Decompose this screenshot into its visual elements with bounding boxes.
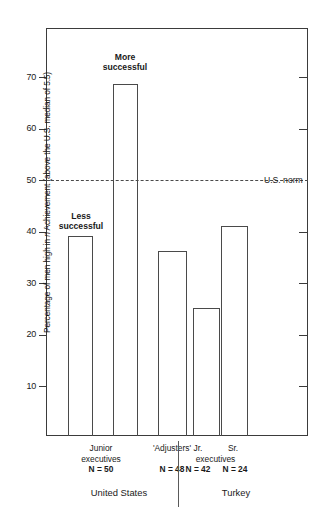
category-label-turkey-sr: Sr. xyxy=(218,443,248,454)
y-tick-right-20 xyxy=(299,335,308,336)
bar-us-adjusters[interactable] xyxy=(158,251,187,436)
y-tick-label-60: 60 xyxy=(16,124,36,133)
bar-us-junior-less-successful[interactable] xyxy=(68,236,93,436)
group-divider xyxy=(178,441,179,507)
category-junior-line2: executives xyxy=(63,454,139,465)
y-tick-10 xyxy=(39,386,47,387)
annotation-more-successful: More successful xyxy=(89,53,161,72)
us-norm-label: U.S. norm xyxy=(264,175,303,185)
category-label-turkey-executives: executives xyxy=(183,454,248,465)
category-turkey-sr-n-value: N = 24 xyxy=(215,464,255,475)
category-junior-n: N = 50 xyxy=(63,464,139,475)
y-axis-title-before: Percentage of men high in xyxy=(42,237,52,333)
category-turkey-jr-label: Jr. xyxy=(183,443,213,454)
annotation-less-line2: successful xyxy=(45,222,117,232)
y-tick-label-40: 40 xyxy=(16,227,36,236)
y-tick-right-10 xyxy=(299,386,308,387)
annotation-less-successful: Less successful xyxy=(45,212,117,231)
category-turkey-sr-label: Sr. xyxy=(218,443,248,454)
y-tick-label-30: 30 xyxy=(16,279,36,288)
y-tick-label-20: 20 xyxy=(16,330,36,339)
y-tick-right-40 xyxy=(299,232,308,233)
y-tick-right-70 xyxy=(299,77,308,78)
category-label-turkey-sr-n: N = 24 xyxy=(215,464,255,475)
y-tick-label-70: 70 xyxy=(16,73,36,82)
category-label-turkey-jr-n: N = 42 xyxy=(178,464,218,475)
group-label-united-states: United States xyxy=(60,487,178,498)
y-axis-title-italic: n xyxy=(42,232,52,237)
bar-us-junior-more-successful[interactable] xyxy=(113,84,138,436)
y-tick-right-30 xyxy=(299,283,308,284)
chart-figure: 70 60 50 40 30 20 10 Percentage of men h… xyxy=(0,0,319,520)
category-turkey-jr-n-value: N = 42 xyxy=(178,464,218,475)
annotation-more-line2: successful xyxy=(89,63,161,73)
group-label-turkey: Turkey xyxy=(180,487,292,498)
y-axis-title: Percentage of men high in n Achievement … xyxy=(43,38,52,368)
category-label-turkey-jr: Jr. xyxy=(183,443,213,454)
y-tick-right-60 xyxy=(299,129,308,130)
category-label-junior-executives: Junior executives N = 50 xyxy=(63,443,139,475)
y-axis-title-after: Achievement (above the U.S. median of 5.… xyxy=(42,72,52,232)
category-turkey-executives-line: executives xyxy=(183,454,248,465)
bar-turkey-sr-executives[interactable] xyxy=(221,226,248,436)
bar-turkey-jr-executives[interactable] xyxy=(193,308,220,436)
y-tick-label-10: 10 xyxy=(16,382,36,391)
category-junior-line1: Junior xyxy=(63,443,139,454)
y-tick-label-50: 50 xyxy=(16,176,36,185)
